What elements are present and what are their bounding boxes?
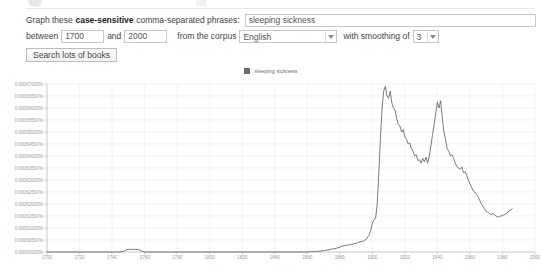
x-axis-tick-label: 1880 [335,255,346,260]
start-year-input[interactable] [61,30,104,43]
x-axis-tick-label: 1940 [432,255,443,260]
y-axis-tick-label: 0.00061500% [15,214,43,219]
y-axis-tick-label: 0.00061000% [15,226,43,231]
between-label: between [26,31,58,41]
x-axis-tick-label: 1760 [139,255,150,260]
smoothing-selected-value: 3 [417,32,422,42]
x-axis-tick-label: 1860 [302,255,313,260]
x-axis-tick-label: 1780 [172,255,183,260]
y-axis-tick-label: 0.00062000% [15,202,43,207]
y-axis-tick-label: 0.00064500% [15,142,43,147]
corpus-select-divider [325,31,326,42]
y-axis-tick-label: 0.00067000% [15,82,43,87]
phrase-row: Graph these case-sensitive comma-separat… [26,13,536,27]
query-form: Graph these case-sensitive comma-separat… [26,13,536,62]
y-axis-tick-label: 0.00065000% [15,130,43,135]
corpus-label: from the corpus [177,31,236,41]
comma-separated-label: comma-separated phrases: [136,15,239,25]
corpus-selected-value: English [243,32,271,42]
ngram-chart[interactable]: 0.00060000%0.00060500%0.00061000%0.00061… [0,80,542,273]
y-axis-tick-label: 0.00060500% [15,238,43,243]
x-axis-tick-label: 1920 [400,255,411,260]
smoothing-select-divider [427,31,428,42]
legend-swatch-icon [244,68,250,74]
y-axis-tick-label: 0.00060000% [15,250,43,255]
smoothing-label: with smoothing of [343,31,409,41]
x-axis-tick-label: 2000 [530,255,541,260]
x-axis-tick-label: 1720 [74,255,85,260]
y-axis-tick-label: 0.00064000% [15,154,43,159]
search-button[interactable]: Search lots of books [26,48,117,62]
phrase-input[interactable] [245,14,536,27]
x-axis-tick-label: 1960 [465,255,476,260]
x-axis-tick-label: 1980 [497,255,508,260]
y-axis-tick-label: 0.00065500% [15,118,43,123]
x-axis-tick-label: 1820 [237,255,248,260]
chevron-down-icon [430,35,436,39]
header-decoration-icon [196,0,206,6]
chevron-down-icon [328,35,334,39]
x-axis-tick-label: 1900 [367,255,378,260]
ngram-viewer-page: Graph these case-sensitive comma-separat… [0,0,542,273]
y-axis-tick-label: 0.00063500% [15,166,43,171]
legend-series-label: sleeping sickness [254,68,297,74]
x-axis-tick-label: 1840 [270,255,281,260]
y-axis-tick-label: 0.00063000% [15,178,43,183]
y-axis-tick-label: 0.00066000% [15,106,43,111]
x-axis-tick-label: 1740 [107,255,118,260]
x-axis-tick-label: 1700 [42,255,53,260]
smoothing-select[interactable]: 3 [413,30,439,43]
chart-canvas: 0.00060000%0.00060500%0.00061000%0.00061… [0,80,542,273]
chart-legend: sleeping sickness [0,68,542,74]
header-divider [26,8,534,9]
header-logo-icon [28,0,42,7]
case-sensitive-label: case-sensitive [75,15,133,25]
x-axis-tick-label: 1800 [205,255,216,260]
data-line-sleeping-sickness[interactable] [47,86,512,252]
y-axis-tick-label: 0.00062500% [15,190,43,195]
corpus-select[interactable]: English [239,30,337,43]
graph-these-label: Graph these [26,15,73,25]
options-row: between and from the corpus English with… [26,29,536,43]
and-label: and [107,31,121,41]
end-year-input[interactable] [124,30,167,43]
y-axis-tick-label: 0.00066500% [15,94,43,99]
